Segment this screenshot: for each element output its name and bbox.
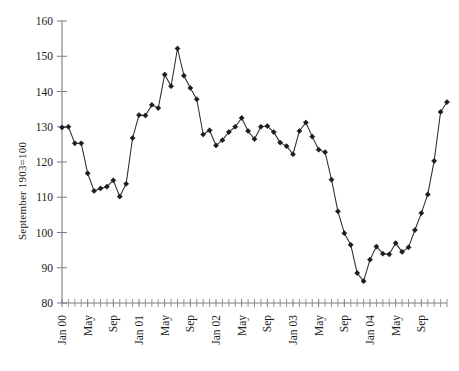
data-point-marker (136, 113, 141, 118)
data-point-marker (181, 73, 186, 78)
x-tick-label: May (82, 315, 95, 336)
x-tick-label: May (236, 315, 249, 336)
data-point-marker (188, 85, 193, 90)
x-tick-group (62, 299, 447, 307)
data-point-marker (143, 113, 148, 118)
data-point-marker (66, 124, 71, 129)
data-point-marker (444, 99, 449, 104)
data-point-marker (59, 125, 64, 130)
data-point-marker (156, 105, 161, 110)
y-tick-label: 140 (36, 86, 54, 98)
data-point-marker (124, 181, 129, 186)
x-tick-label: Sep (184, 315, 197, 333)
data-point-marker (72, 141, 77, 146)
y-tick-label: 80 (42, 297, 54, 309)
data-point-marker (98, 186, 103, 191)
y-axis-label-text: September 1903=100 (16, 142, 28, 240)
y-tick-label: 110 (36, 191, 53, 203)
data-point-marker (322, 150, 327, 155)
series-line-index (62, 49, 447, 282)
y-tick-label: 120 (36, 156, 54, 168)
data-point-marker (194, 97, 199, 102)
data-point-marker (387, 252, 392, 257)
x-tick-label: Jan 01 (133, 315, 145, 345)
y-tick-label: 160 (36, 15, 54, 27)
data-point-marker (162, 72, 167, 77)
y-axis-label: September 1903=100 (16, 142, 28, 240)
x-tick-label: Jan 02 (210, 315, 222, 345)
x-tick-label: Sep (415, 315, 428, 333)
data-point-marker (175, 46, 180, 51)
x-tick-label: May (159, 315, 172, 336)
data-point-marker (335, 209, 340, 214)
y-tick-label: 90 (42, 262, 54, 274)
data-point-marker (432, 158, 437, 163)
x-tick-label: Sep (107, 315, 120, 333)
data-point-marker (149, 102, 154, 107)
x-tick-label-group: Jan 00MaySepJan 01MaySepJan 02MaySepJan … (56, 315, 428, 345)
data-point-marker (91, 188, 96, 193)
data-point-marker (348, 242, 353, 247)
data-point-marker (85, 171, 90, 176)
x-tick-label: Jan 03 (287, 315, 299, 345)
data-point-marker (438, 109, 443, 114)
data-point-marker (367, 257, 372, 262)
plot-area (59, 46, 449, 284)
series-markers-index (59, 46, 449, 284)
x-tick-label: Sep (261, 315, 274, 333)
x-tick-label: Jan 00 (56, 315, 68, 345)
chart-container: September 1903=100 809010011012013014015… (0, 0, 459, 371)
x-tick-label: May (390, 315, 403, 336)
y-tick-label: 130 (36, 121, 54, 133)
x-tick-label: Sep (338, 315, 351, 333)
data-point-marker (342, 231, 347, 236)
data-point-marker (425, 192, 430, 197)
data-point-marker (412, 227, 417, 232)
data-point-marker (310, 134, 315, 139)
x-tick-label: May (313, 315, 326, 336)
data-point-marker (79, 141, 84, 146)
data-point-marker (168, 84, 173, 89)
data-point-marker (329, 177, 334, 182)
line-chart: September 1903=100 809010011012013014015… (0, 0, 459, 371)
x-tick-label: Jan 04 (364, 315, 376, 345)
y-tick-label: 150 (36, 50, 54, 62)
data-point-marker (117, 194, 122, 199)
data-point-marker (316, 147, 321, 152)
data-point-marker (278, 140, 283, 145)
y-tick-label: 100 (36, 227, 54, 239)
data-point-marker (130, 135, 135, 140)
data-point-marker (258, 124, 263, 129)
data-point-marker (419, 211, 424, 216)
